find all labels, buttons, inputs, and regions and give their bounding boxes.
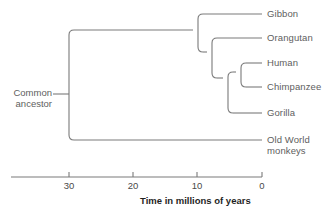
root-label-line1: Common xyxy=(4,87,52,98)
tip-label-old-world-monkeys-line1: Old World xyxy=(267,134,310,145)
phylogenetic-tree-figure: Common ancestor Gibbon Orangutan Human C… xyxy=(0,0,323,211)
axis-tick-label-10: 10 xyxy=(185,180,209,191)
tip-label-chimpanzee: Chimpanzee xyxy=(267,81,321,92)
root-node-branch xyxy=(69,30,74,140)
root-label: Common ancestor xyxy=(4,87,52,109)
axis-title: Time in millions of years xyxy=(140,195,251,206)
root-label-line2: ancestor xyxy=(4,98,52,109)
tip-label-gorilla: Gorilla xyxy=(267,107,295,118)
axis-tick-label-30: 30 xyxy=(57,180,81,191)
tip-label-old-world-monkeys: Old World monkeys xyxy=(267,134,310,156)
tip-label-old-world-monkeys-line2: monkeys xyxy=(267,145,310,156)
human-chimp-node-branch xyxy=(241,63,246,87)
tip-label-human: Human xyxy=(267,57,298,68)
african-ape-node-branch xyxy=(228,72,233,113)
tip-label-gibbon: Gibbon xyxy=(267,8,298,19)
axis-tick-label-20: 20 xyxy=(121,180,145,191)
great-ape-node-branch xyxy=(212,38,217,78)
tip-label-orangutan: Orangutan xyxy=(267,32,313,43)
hominoid-node-branch xyxy=(198,14,203,52)
axis-tick-label-0: 0 xyxy=(250,180,274,191)
